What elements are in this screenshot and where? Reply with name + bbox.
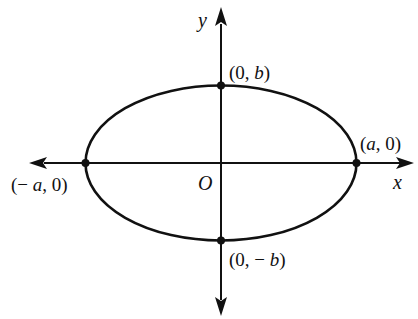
vertex-top-dot	[217, 82, 225, 90]
vertex-left-dot	[82, 159, 90, 167]
diagram-canvas	[0, 0, 418, 319]
vertex-right-dot	[353, 159, 361, 167]
y-axis-label: y	[198, 10, 207, 30]
point-label-top: (0, b)	[229, 63, 270, 82]
origin-label: O	[198, 173, 212, 193]
point-label-left: (− a, 0)	[11, 175, 68, 194]
y-axis	[215, 7, 227, 316]
vertex-bottom-dot	[217, 237, 225, 245]
point-label-right: (a, 0)	[360, 134, 401, 153]
x-axis-label: x	[393, 172, 402, 192]
ellipse-diagram: y x O (0, b) (0, − b) (a, 0) (− a, 0)	[0, 0, 418, 319]
point-label-bottom: (0, − b)	[229, 250, 286, 269]
y-axis-arrow-up-icon	[215, 7, 227, 26]
